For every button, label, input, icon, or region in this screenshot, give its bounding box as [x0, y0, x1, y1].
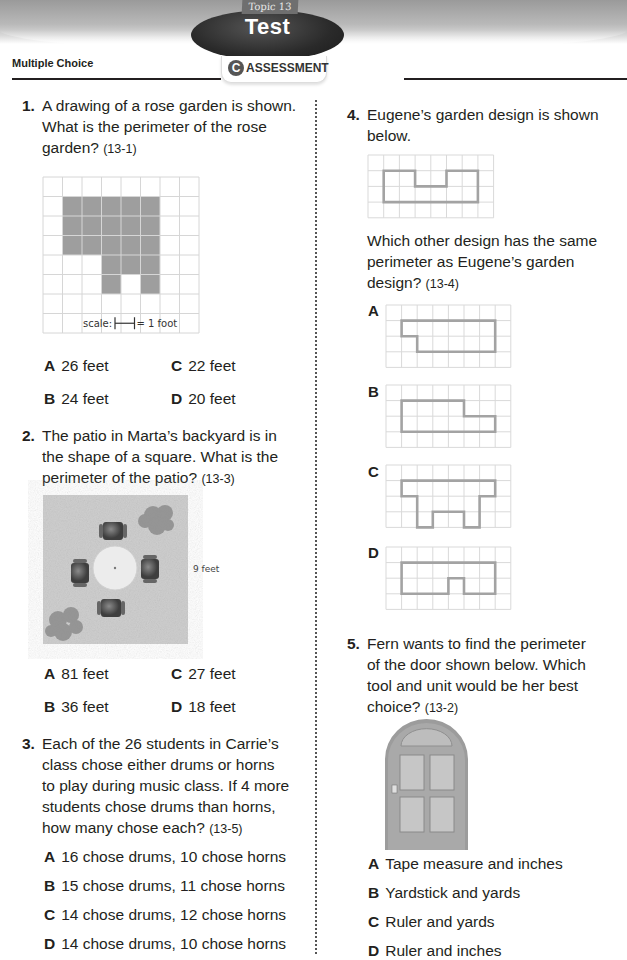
option-text: 27 feet — [188, 665, 235, 682]
option-4c-label[interactable]: C — [368, 463, 379, 480]
shaded-cell — [141, 275, 161, 295]
option-2d[interactable]: D18 feet — [171, 698, 236, 716]
option-3c[interactable]: C14 chose drums, 12 chose horns — [44, 906, 286, 924]
shaded-cell — [141, 255, 161, 275]
option-letter: D — [368, 942, 379, 959]
shaded-cell — [102, 275, 122, 295]
option-3b[interactable]: B15 chose drums, 11 chose horns — [44, 877, 285, 895]
option-text: 14 chose drums, 10 chose horns — [61, 935, 286, 952]
topic-tag: Topic 13 — [242, 0, 299, 14]
shaded-cell — [102, 255, 122, 275]
option-4a-label[interactable]: A — [368, 302, 379, 319]
option-letter: A — [44, 357, 55, 374]
option-3d[interactable]: D14 chose drums, 10 chose horns — [44, 935, 286, 953]
option-4d-grid[interactable] — [386, 547, 512, 610]
option-2b[interactable]: B36 feet — [44, 698, 109, 716]
question-number: 4. — [347, 104, 360, 125]
option-text: 15 chose drums, 11 chose horns — [61, 877, 285, 894]
option-2a[interactable]: A81 feet — [44, 665, 109, 683]
question-text: Fern wants to find the perimeter of the … — [367, 633, 586, 719]
door-panel — [430, 755, 454, 790]
header-rule-right — [404, 78, 627, 80]
lesson-ref: (13-3) — [201, 472, 234, 486]
shaded-cell — [121, 216, 141, 236]
option-1d[interactable]: D20 feet — [171, 390, 236, 408]
shaded-cell — [141, 197, 161, 217]
option-text: Ruler and yards — [385, 913, 494, 930]
question-line: Eugene’s garden design is shown — [367, 104, 599, 125]
question-line: design? — [367, 274, 421, 291]
option-text: 16 chose drums, 10 chose horns — [61, 848, 286, 865]
chair-icon — [99, 522, 127, 540]
option-4a-grid[interactable] — [386, 305, 512, 368]
question-line: class chose either drums or horns — [42, 754, 289, 775]
option-text: 22 feet — [188, 357, 235, 374]
option-text: 36 feet — [61, 698, 108, 715]
option-1b[interactable]: B24 feet — [44, 390, 109, 408]
shaded-cell — [63, 236, 83, 256]
shaded-cell — [141, 236, 161, 256]
option-letter: B — [368, 884, 379, 901]
question-line: Fern wants to find the perimeter — [367, 633, 586, 654]
option-3a[interactable]: A16 chose drums, 10 chose horns — [44, 848, 286, 866]
question-text: The patio in Marta’s backyard is in the … — [42, 425, 278, 490]
option-5c[interactable]: CRuler and yards — [368, 913, 495, 931]
eugene-design-grid — [368, 155, 495, 220]
door-handle-icon — [392, 785, 397, 793]
option-2c[interactable]: C27 feet — [171, 665, 236, 683]
question-text: Which other design has the same perimete… — [367, 230, 597, 295]
option-text: Yardstick and yards — [385, 884, 520, 901]
option-text: 14 chose drums, 12 chose horns — [61, 906, 286, 923]
rose-garden-grid: scale:= 1 foot — [43, 177, 200, 337]
option-5a[interactable]: ATape measure and inches — [368, 855, 563, 873]
shaded-cell — [102, 216, 122, 236]
option-4c-grid[interactable] — [386, 465, 512, 528]
assessment-badge: C ASSESSMENT — [221, 56, 327, 83]
question-line: What is the perimeter of the rose — [42, 116, 296, 137]
option-1c[interactable]: C22 feet — [171, 357, 236, 375]
question-line: perimeter as Eugene’s garden — [367, 251, 597, 272]
scale-label: scale: — [83, 318, 112, 329]
lesson-ref: (13-1) — [103, 142, 136, 156]
shaded-cell — [141, 216, 161, 236]
shaded-cell — [63, 216, 83, 236]
option-5d[interactable]: DRuler and inches — [368, 942, 502, 960]
option-text: 81 feet — [61, 665, 108, 682]
section-title: Multiple Choice — [12, 57, 93, 69]
shaded-cell — [121, 255, 141, 275]
shaded-cell — [82, 236, 102, 256]
question-line: Each of the 26 students in Carrie’s — [42, 733, 289, 754]
shaded-cell — [121, 197, 141, 217]
question-number: 3. — [22, 733, 35, 754]
option-text: Ruler and inches — [385, 942, 501, 959]
patio-side-label: 9 feet — [193, 564, 219, 574]
question-text: Eugene’s garden design is shown below. — [367, 104, 599, 146]
chair-icon — [97, 599, 125, 617]
option-text: 24 feet — [61, 390, 108, 407]
door-panel — [400, 755, 424, 790]
option-4b-label[interactable]: B — [368, 383, 379, 400]
question-text: A drawing of a rose garden is shown. Wha… — [42, 95, 296, 160]
option-4b-grid[interactable] — [386, 385, 512, 448]
option-text: 26 feet — [61, 357, 108, 374]
question-number: 5. — [347, 633, 360, 654]
option-4d-label[interactable]: D — [368, 544, 379, 561]
shaded-cell — [63, 197, 83, 217]
option-5b[interactable]: BYardstick and yards — [368, 884, 520, 902]
question-line: to play during music class. If 4 more — [42, 775, 289, 796]
option-letter: B — [44, 877, 55, 894]
shaded-cell — [82, 197, 102, 217]
option-1a[interactable]: A26 feet — [44, 357, 109, 375]
question-line: A drawing of a rose garden is shown. — [42, 95, 296, 116]
question-number: 2. — [22, 425, 35, 446]
lesson-ref: (13-4) — [426, 277, 459, 291]
question-number: 1. — [22, 95, 35, 116]
page-title: Test — [191, 14, 344, 40]
option-letter: B — [44, 390, 55, 407]
question-line: tool and unit would be her best — [367, 675, 586, 696]
option-text: 18 feet — [188, 698, 235, 715]
option-letter: C — [171, 665, 182, 682]
shaded-cell — [82, 216, 102, 236]
question-line: The patio in Marta’s backyard is in — [42, 425, 278, 446]
question-line: perimeter of the patio? — [42, 469, 197, 486]
